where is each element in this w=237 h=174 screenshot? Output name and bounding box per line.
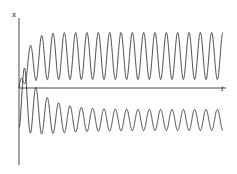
y-axis-label: x <box>12 10 16 19</box>
upper-oscillation-curve <box>19 33 223 89</box>
lower-oscillation-curve <box>19 68 223 134</box>
plot-canvas <box>0 0 237 174</box>
x-axis-label: t <box>221 84 224 93</box>
oscillation-figure: x t <box>0 0 237 174</box>
